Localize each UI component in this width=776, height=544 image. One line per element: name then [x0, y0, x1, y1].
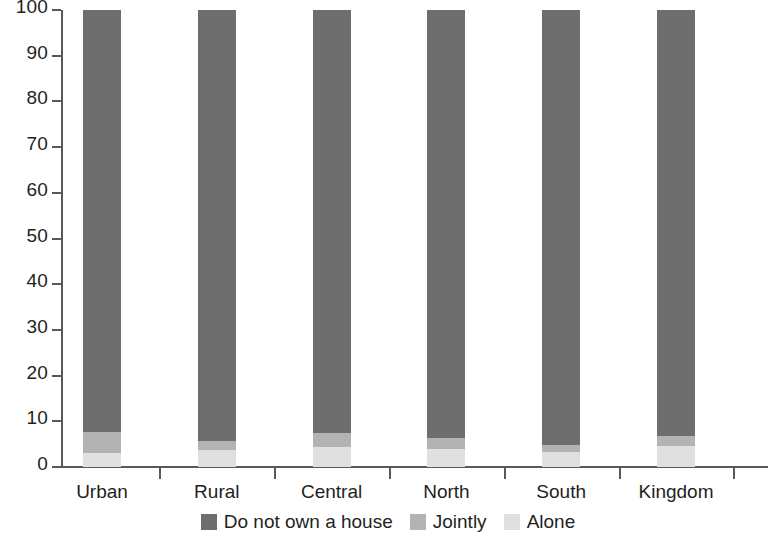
x-axis-tick-mark — [619, 468, 621, 479]
legend-swatch-icon — [504, 514, 520, 530]
bar-urban[interactable] — [83, 10, 121, 467]
y-axis-tick-label: 50 — [26, 226, 48, 245]
legend-item[interactable]: Alone — [504, 512, 576, 532]
bar-segment[interactable] — [427, 449, 465, 467]
bar-segment[interactable] — [542, 10, 580, 445]
bar-south[interactable] — [542, 10, 580, 467]
bar-segment[interactable] — [427, 438, 465, 449]
legend-item[interactable]: Do not own a house — [201, 512, 393, 532]
y-axis-tick-mark — [52, 238, 61, 240]
x-axis-tick-mark — [389, 468, 391, 479]
y-axis-tick-mark — [52, 9, 61, 11]
y-axis-tick-mark — [52, 192, 61, 194]
bar-rural[interactable] — [198, 10, 236, 467]
chart-legend: Do not own a houseJointlyAlone — [0, 512, 776, 532]
x-axis-label-urban: Urban — [42, 481, 162, 502]
stacked-bar-chart: 0102030405060708090100 UrbanRuralCentral… — [0, 0, 776, 544]
bar-central[interactable] — [313, 10, 351, 467]
y-axis-tick-mark — [52, 329, 61, 331]
y-axis-tick-label: 20 — [26, 363, 48, 382]
y-axis-tick-mark — [52, 55, 61, 57]
bar-segment[interactable] — [198, 441, 236, 450]
bar-segment[interactable] — [83, 432, 121, 453]
y-axis-tick-label: 0 — [37, 454, 48, 473]
legend-swatch-icon — [410, 514, 426, 530]
x-axis-tick-mark — [274, 468, 276, 479]
legend-label: Jointly — [433, 512, 487, 532]
y-axis-tick-mark — [52, 466, 61, 468]
y-axis-tick-mark — [52, 375, 61, 377]
y-axis-tick-label: 10 — [26, 408, 48, 427]
y-axis-tick-mark — [52, 420, 61, 422]
y-axis-tick-label: 70 — [26, 134, 48, 153]
bar-segment[interactable] — [198, 450, 236, 467]
legend-swatch-icon — [201, 514, 217, 530]
bar-segment[interactable] — [313, 447, 351, 467]
bar-segment[interactable] — [657, 10, 695, 436]
bar-segment[interactable] — [313, 433, 351, 447]
legend-label: Alone — [527, 512, 576, 532]
bar-segment[interactable] — [542, 445, 580, 452]
bar-segment[interactable] — [313, 10, 351, 433]
y-axis-tick-label: 30 — [26, 317, 48, 336]
bar-segment[interactable] — [198, 10, 236, 441]
x-axis-label-rural: Rural — [157, 481, 277, 502]
x-axis-label-north: North — [386, 481, 506, 502]
bar-segment[interactable] — [657, 446, 695, 467]
bar-segment[interactable] — [83, 10, 121, 432]
bar-segment[interactable] — [542, 452, 580, 467]
x-axis-label-kingdom: Kingdom — [616, 481, 736, 502]
x-axis-tick-mark — [733, 468, 735, 479]
y-axis-tick-mark — [52, 100, 61, 102]
bar-segment[interactable] — [657, 436, 695, 446]
y-axis-tick-label: 80 — [26, 88, 48, 107]
x-axis-label-central: Central — [272, 481, 392, 502]
plot-area — [62, 10, 768, 467]
y-axis-tick-mark — [52, 146, 61, 148]
legend-item[interactable]: Jointly — [410, 512, 487, 532]
bar-kingdom[interactable] — [657, 10, 695, 467]
bar-segment[interactable] — [427, 10, 465, 438]
bar-north[interactable] — [427, 10, 465, 467]
y-axis-tick-label: 100 — [16, 0, 48, 16]
bar-segment[interactable] — [83, 453, 121, 467]
y-axis-tick-label: 90 — [26, 43, 48, 62]
x-axis-tick-mark — [504, 468, 506, 479]
legend-label: Do not own a house — [224, 512, 393, 532]
y-axis-tick-label: 40 — [26, 271, 48, 290]
x-axis-tick-mark — [159, 468, 161, 479]
x-axis-label-south: South — [501, 481, 621, 502]
y-axis-tick-mark — [52, 283, 61, 285]
y-axis-tick-label: 60 — [26, 180, 48, 199]
